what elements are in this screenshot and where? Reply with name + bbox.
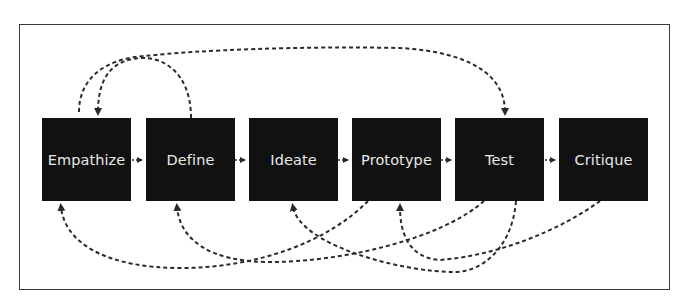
stage-critique: Critique (559, 118, 648, 201)
loop-test-to-define (177, 201, 484, 262)
loop-critique-to-prototype (400, 201, 600, 260)
stage-ideate: Ideate (249, 118, 338, 201)
stage-define: Define (146, 118, 235, 201)
stage-label: Test (485, 152, 514, 168)
stage-label: Define (167, 152, 215, 168)
stage-empathize: Empathize (42, 118, 131, 201)
loop-define-to-empathize (98, 58, 191, 118)
stage-label: Ideate (270, 152, 317, 168)
stage-prototype: Prototype (352, 118, 441, 201)
stage-label: Critique (575, 152, 633, 168)
stage-label: Prototype (361, 152, 432, 168)
loop-prototype-to-empathize (61, 201, 368, 268)
stage-label: Empathize (48, 152, 126, 168)
stage-test: Test (455, 118, 544, 201)
